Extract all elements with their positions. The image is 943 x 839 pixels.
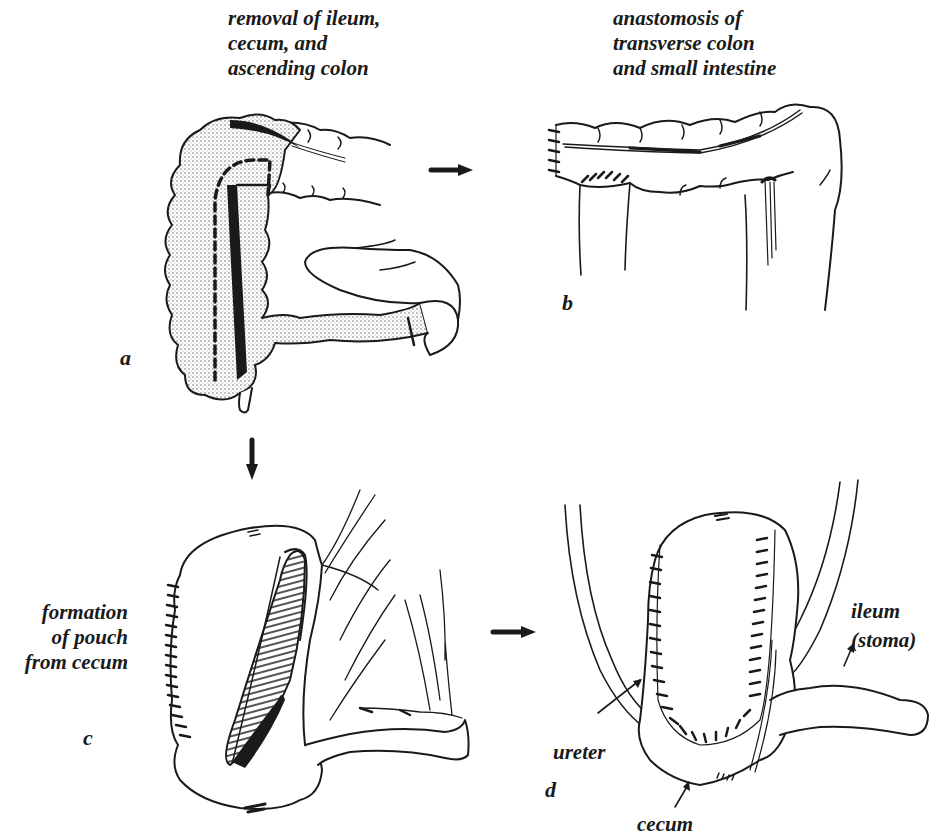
arrow-c-to-d bbox=[493, 626, 536, 638]
arrow-a-to-c bbox=[246, 440, 258, 480]
panel-c-drawing bbox=[166, 490, 469, 812]
panel-a-drawing bbox=[165, 114, 460, 412]
panel-d-drawing bbox=[565, 480, 928, 807]
illustration-canvas bbox=[0, 0, 943, 839]
panel-b-drawing bbox=[549, 104, 842, 310]
ureter-pointer-arrow bbox=[598, 680, 640, 713]
arrow-a-to-b bbox=[431, 164, 473, 176]
